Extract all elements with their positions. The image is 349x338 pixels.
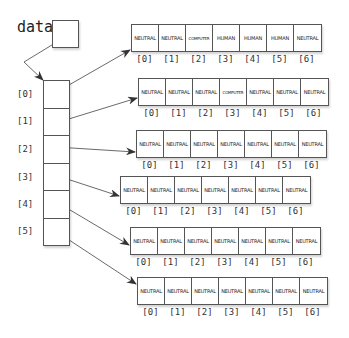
- outer-array-cell: [44, 81, 69, 109]
- inner-array-1: NEUTRAL NEUTRAL NEUTRAL COMPUTER NEUTRAL…: [138, 78, 329, 118]
- index-label: [0]: [130, 257, 157, 267]
- index-label: [3]: [217, 160, 244, 170]
- array-cell: NEUTRAL: [193, 79, 220, 105]
- index-label: [3]: [212, 54, 239, 64]
- outer-index-label: [2]: [17, 144, 33, 154]
- array-cell: NEUTRAL: [219, 278, 246, 304]
- array-cell: NEUTRAL: [300, 278, 327, 304]
- array-cell: COMPUTER: [220, 79, 247, 105]
- index-label: [0]: [136, 160, 163, 170]
- index-label: [1]: [165, 108, 192, 118]
- array-cell: NEUTRAL: [138, 278, 165, 304]
- index-label: [6]: [292, 257, 319, 267]
- array-cell: NEUTRAL: [274, 79, 301, 105]
- index-label: [2]: [190, 160, 217, 170]
- index-label: [5]: [265, 257, 292, 267]
- array-cell: NEUTRAL: [148, 177, 175, 203]
- index-label: [4]: [228, 206, 255, 216]
- array-cell: NEUTRAL: [229, 177, 256, 203]
- array-cell: NEUTRAL: [239, 228, 266, 254]
- index-label: [5]: [266, 54, 293, 64]
- variable-reference-box: [52, 20, 79, 48]
- index-label: [1]: [163, 160, 190, 170]
- outer-array-cell: [44, 191, 69, 219]
- array-cell: HUMAN: [267, 25, 294, 51]
- index-label: [0]: [137, 307, 164, 317]
- array-cell: NEUTRAL: [273, 278, 300, 304]
- array-cell: NEUTRAL: [132, 25, 159, 51]
- index-label: [3]: [201, 206, 228, 216]
- variable-name-label: data: [17, 18, 53, 36]
- index-label: [6]: [298, 160, 325, 170]
- outer-array: [43, 80, 70, 246]
- index-label: [2]: [191, 307, 218, 317]
- outer-array-cell: [44, 164, 69, 192]
- array-cell: NEUTRAL: [131, 228, 158, 254]
- index-label: [3]: [219, 108, 246, 118]
- index-label: [4]: [245, 307, 272, 317]
- array-cell: NEUTRAL: [212, 228, 239, 254]
- array-cell: NEUTRAL: [299, 131, 326, 157]
- array-cell: NEUTRAL: [245, 131, 272, 157]
- inner-array-4: NEUTRAL NEUTRAL NEUTRAL NEUTRAL NEUTRAL …: [130, 227, 321, 267]
- array-cell: NEUTRAL: [202, 177, 229, 203]
- array-cell: NEUTRAL: [283, 177, 310, 203]
- outer-array-cell: [44, 136, 69, 164]
- index-label: [0]: [120, 206, 147, 216]
- outer-index-label: [5]: [17, 226, 33, 236]
- array-cell: NEUTRAL: [191, 131, 218, 157]
- index-label: [1]: [157, 257, 184, 267]
- array-cell: HUMAN: [240, 25, 267, 51]
- array-cell: NEUTRAL: [301, 79, 328, 105]
- index-label: [5]: [271, 160, 298, 170]
- outer-index-label: [3]: [17, 172, 33, 182]
- index-label: [2]: [192, 108, 219, 118]
- inner-index-row: [0] [1] [2] [3] [4] [5] [6]: [136, 160, 327, 170]
- array-cell: NEUTRAL: [164, 131, 191, 157]
- array-cell: NEUTRAL: [185, 228, 212, 254]
- array-cell: NEUTRAL: [137, 131, 164, 157]
- index-label: [6]: [300, 108, 327, 118]
- index-label: [1]: [158, 54, 185, 64]
- index-label: [1]: [164, 307, 191, 317]
- inner-array-0: NEUTRAL NEUTRAL COMPUTER HUMAN HUMAN HUM…: [131, 24, 322, 64]
- outer-index-label: [4]: [17, 199, 33, 209]
- array-cell: NEUTRAL: [246, 278, 273, 304]
- array-cell: NEUTRAL: [121, 177, 148, 203]
- array-cell: COMPUTER: [186, 25, 213, 51]
- inner-array-cells: NEUTRAL NEUTRAL NEUTRAL NEUTRAL NEUTRAL …: [137, 277, 328, 305]
- outer-index-label: [1]: [17, 116, 33, 126]
- inner-array-cells: NEUTRAL NEUTRAL NEUTRAL NEUTRAL NEUTRAL …: [130, 227, 321, 255]
- inner-index-row: [0] [1] [2] [3] [4] [5] [6]: [138, 108, 329, 118]
- index-label: [0]: [131, 54, 158, 64]
- inner-index-row: [0] [1] [2] [3] [4] [5] [6]: [131, 54, 322, 64]
- inner-array-cells: NEUTRAL NEUTRAL NEUTRAL COMPUTER NEUTRAL…: [138, 78, 329, 106]
- array-cell: NEUTRAL: [139, 79, 166, 105]
- array-cell: NEUTRAL: [294, 25, 321, 51]
- inner-array-cells: NEUTRAL NEUTRAL NEUTRAL NEUTRAL NEUTRAL …: [136, 130, 327, 158]
- array-cell: NEUTRAL: [159, 25, 186, 51]
- index-label: [3]: [218, 307, 245, 317]
- index-label: [4]: [238, 257, 265, 267]
- index-label: [2]: [174, 206, 201, 216]
- index-label: [4]: [246, 108, 273, 118]
- inner-array-cells: NEUTRAL NEUTRAL NEUTRAL NEUTRAL NEUTRAL …: [120, 176, 311, 204]
- index-label: [4]: [239, 54, 266, 64]
- index-label: [4]: [244, 160, 271, 170]
- outer-index-label: [0]: [17, 89, 33, 99]
- index-label: [6]: [282, 206, 309, 216]
- array-cell: NEUTRAL: [218, 131, 245, 157]
- array-cell: NEUTRAL: [192, 278, 219, 304]
- array-cell: NEUTRAL: [158, 228, 185, 254]
- index-label: [5]: [273, 108, 300, 118]
- array-cell: NEUTRAL: [166, 79, 193, 105]
- inner-index-row: [0] [1] [2] [3] [4] [5] [6]: [137, 307, 328, 317]
- index-label: [6]: [299, 307, 326, 317]
- outer-array-cell: [44, 109, 69, 137]
- array-cell: NEUTRAL: [272, 131, 299, 157]
- array-cell: NEUTRAL: [293, 228, 320, 254]
- index-label: [3]: [211, 257, 238, 267]
- array-cell: NEUTRAL: [247, 79, 274, 105]
- array-cell: NEUTRAL: [165, 278, 192, 304]
- index-label: [1]: [147, 206, 174, 216]
